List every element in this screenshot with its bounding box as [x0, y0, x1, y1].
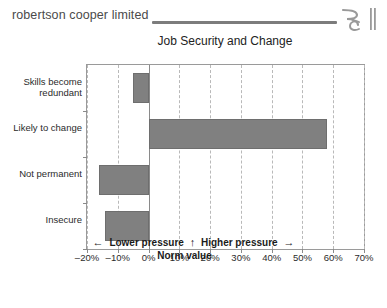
higher-pressure-label: Higher pressure [201, 237, 278, 248]
brand-name: robertson cooper limited [12, 8, 149, 22]
chart-title: Job Security and Change [90, 34, 360, 48]
y-axis-label: Not permanent [0, 168, 82, 179]
y-axis-label: Likely to change [0, 122, 82, 133]
lower-pressure-label: Lower pressure [109, 237, 183, 248]
y-axis-tick [83, 111, 87, 112]
norm-value-row: Norm value [0, 250, 387, 261]
bar [149, 119, 328, 149]
bar [133, 73, 148, 103]
y-axis-tick [83, 157, 87, 158]
gridline [210, 65, 211, 249]
gridline [272, 65, 273, 249]
pressure-scale-row: ← Lower pressure ↑ Higher pressure → [0, 236, 387, 248]
y-axis-label: Skills become redundant [0, 76, 82, 98]
gridline [179, 65, 180, 249]
page-header: robertson cooper limited [0, 0, 387, 36]
gridline [241, 65, 242, 249]
gridline [87, 65, 88, 249]
right-arrow-icon: → [280, 236, 297, 248]
axis-caption: ← Lower pressure ↑ Higher pressure → Nor… [0, 236, 387, 276]
gridline [364, 65, 365, 249]
gridline [302, 65, 303, 249]
y-axis-labels: Skills become redundantLikely to changeN… [0, 64, 82, 250]
header-rule [152, 21, 337, 24]
bar [99, 165, 148, 195]
zero-line [149, 65, 150, 249]
left-arrow-icon: ← [90, 236, 107, 248]
up-arrow-icon: ↑ [187, 236, 199, 248]
gridline [333, 65, 334, 249]
y-axis-label: Insecure [0, 214, 82, 225]
norm-value-label: Norm value [157, 250, 211, 261]
y-axis-tick [83, 203, 87, 204]
plot-area [86, 64, 365, 250]
rc-monogram-logo [337, 5, 379, 33]
